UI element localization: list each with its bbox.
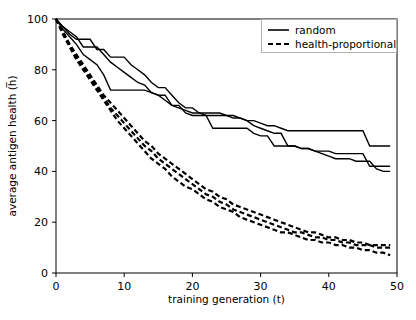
legend-label-health-proportional: health-proportional [295, 38, 396, 50]
chart-canvas: 01020304050 020406080100 training genera… [0, 0, 416, 320]
data-series-group [56, 19, 390, 255]
x-tick-label: 40 [322, 280, 336, 293]
x-tick-label: 50 [390, 280, 404, 293]
x-tick-label: 10 [117, 280, 131, 293]
y-tick-label: 0 [41, 267, 48, 280]
chart-legend: random health-proportional [262, 20, 397, 53]
y-axis-ticks: 020406080100 [27, 13, 56, 280]
y-axis-title: average antigen health (h̅) [6, 76, 18, 217]
series-line [56, 19, 390, 255]
legend-label-random: random [295, 24, 336, 36]
x-tick-label: 30 [254, 280, 268, 293]
x-axis-ticks: 01020304050 [53, 273, 405, 293]
axes-spines [56, 19, 397, 273]
y-tick-label: 100 [27, 13, 48, 26]
plot-frame [56, 19, 397, 273]
series-line [56, 19, 390, 248]
y-tick-label: 80 [34, 64, 48, 77]
x-tick-label: 20 [185, 280, 199, 293]
y-tick-label: 40 [34, 165, 48, 178]
chart-figure: 01020304050 020406080100 training genera… [0, 0, 416, 320]
y-tick-label: 20 [34, 216, 48, 229]
x-tick-label: 0 [53, 280, 60, 293]
x-axis-title: training generation (t) [168, 293, 285, 305]
y-tick-label: 60 [34, 115, 48, 128]
